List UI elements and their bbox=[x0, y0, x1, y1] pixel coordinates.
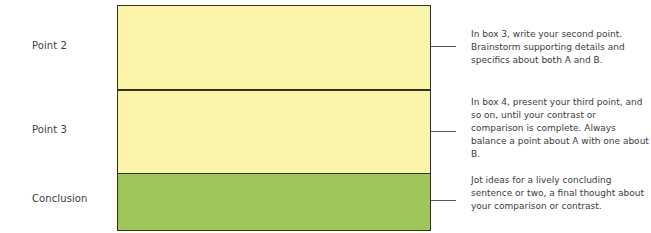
point-2-box bbox=[118, 6, 430, 89]
row-label-point-3: Point 3 bbox=[32, 124, 67, 135]
row-label-conclusion: Conclusion bbox=[32, 193, 88, 204]
note-point-3: In box 4, present your third point, and … bbox=[471, 96, 649, 161]
note-point-2: In box 3, write your second point. Brain… bbox=[471, 28, 649, 67]
graphic-organizer bbox=[117, 5, 431, 231]
point-3-box bbox=[118, 91, 430, 173]
connector-line-point-2 bbox=[431, 46, 456, 47]
connector-line-point-3 bbox=[431, 131, 456, 132]
connector-line-conclusion bbox=[431, 200, 456, 201]
conclusion-box bbox=[118, 174, 430, 230]
note-conclusion: Jot ideas for a lively concluding senten… bbox=[471, 174, 649, 213]
row-label-point-2: Point 2 bbox=[32, 40, 67, 51]
